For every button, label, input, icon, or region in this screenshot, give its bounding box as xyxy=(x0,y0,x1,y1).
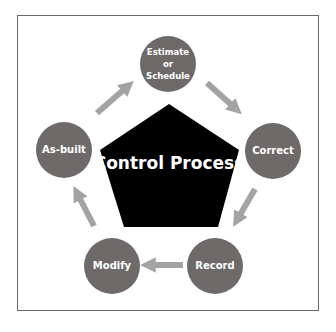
arrow-estimate-to-correct xyxy=(207,83,236,109)
node-label: Correct xyxy=(252,145,294,156)
node-label-line: Estimate xyxy=(147,47,189,57)
center-pentagon: Control Process xyxy=(94,104,245,227)
node-label-line: or xyxy=(163,59,174,69)
node-as-built: As-built xyxy=(36,122,92,178)
center-label: Control Process xyxy=(94,153,245,173)
node-correct: Correct xyxy=(245,123,301,179)
node-label: Record xyxy=(195,260,234,271)
node-modify: Modify xyxy=(84,238,140,294)
node-label-line: Schedule xyxy=(146,71,190,81)
node-estimate-or-schedule: Estimate or Schedule xyxy=(140,36,196,92)
control-process-diagram: Control Process Estimate or Schedule Cor… xyxy=(0,0,336,332)
arrow-modify-to-asbuilt xyxy=(77,193,94,226)
arrow-asbuilt-to-estimate xyxy=(97,86,128,113)
node-label: Modify xyxy=(93,260,132,271)
node-record: Record xyxy=(187,238,243,294)
arrow-correct-to-record xyxy=(237,189,255,220)
node-label: As-built xyxy=(42,144,86,155)
